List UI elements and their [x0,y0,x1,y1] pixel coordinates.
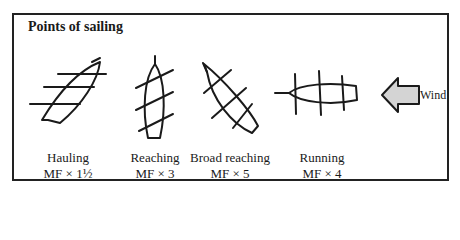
point-name: Reaching [130,150,179,166]
point-broad-reaching: Broad reaching MF × 5 [190,150,270,182]
wind-arrow-icon [382,78,419,112]
wind-label: Wind [420,88,446,103]
point-running: Running MF × 4 [300,150,345,182]
reaching-boat-icon [136,56,173,138]
broad-reaching-boat-icon [203,63,258,133]
hauling-boat-icon [30,58,106,123]
point-name: Broad reaching [190,150,270,166]
point-factor: MF × 5 [190,166,270,182]
point-reaching: Reaching MF × 3 [130,150,179,182]
point-name: Hauling [44,150,93,166]
running-boat-icon [275,71,357,115]
point-factor: MF × 4 [300,166,345,182]
point-hauling: Hauling MF × 1½ [44,150,93,182]
point-factor: MF × 3 [130,166,179,182]
point-factor: MF × 1½ [44,166,93,182]
point-name: Running [300,150,345,166]
